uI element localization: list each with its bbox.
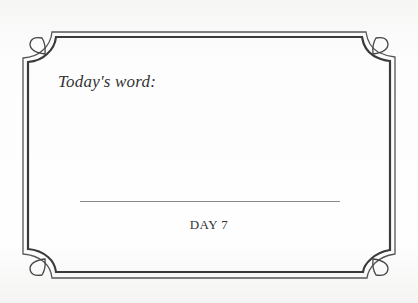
answer-line xyxy=(80,201,340,202)
day-label: DAY 7 xyxy=(0,217,418,233)
prompt-label: Today's word: xyxy=(58,72,156,92)
word-card: Today's word: DAY 7 xyxy=(0,0,418,303)
ornamental-frame-icon xyxy=(0,0,418,303)
